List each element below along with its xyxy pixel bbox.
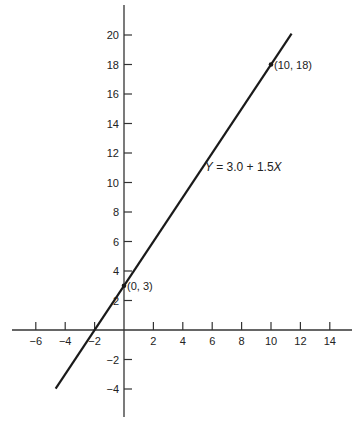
equation-label: Y = 3.0 + 1.5X <box>205 160 283 174</box>
y-ticks: −4−22468101214161820 <box>106 29 132 395</box>
x-tick-label: 10 <box>265 335 277 347</box>
line-chart: −6−4−22468101214 −4−22468101214161820 (0… <box>0 0 363 424</box>
y-tick-label: 10 <box>107 177 119 189</box>
series-line <box>56 34 292 389</box>
x-tick-label: −6 <box>30 335 43 347</box>
y-tick-label: 8 <box>113 206 119 218</box>
x-tick-label: 8 <box>239 335 245 347</box>
y-tick-label: 4 <box>113 265 119 277</box>
point-label: (10, 18) <box>274 59 312 71</box>
y-tick-label: 6 <box>113 236 119 248</box>
x-ticks: −6−4−22468101214 <box>30 322 336 347</box>
x-tick-label: 12 <box>294 335 306 347</box>
y-tick-label: 18 <box>107 59 119 71</box>
x-tick-label: 14 <box>324 335 336 347</box>
regression-line <box>56 34 292 389</box>
point-label: (0, 3) <box>127 280 153 292</box>
y-tick-label: 14 <box>107 118 119 130</box>
y-tick-label: 12 <box>107 147 119 159</box>
data-point <box>269 62 274 67</box>
x-tick-label: 6 <box>209 335 215 347</box>
y-tick-label: −4 <box>106 383 119 395</box>
x-tick-label: −4 <box>59 335 72 347</box>
x-tick-label: 2 <box>150 335 156 347</box>
y-tick-label: 16 <box>107 88 119 100</box>
y-tick-label: −2 <box>106 354 119 366</box>
data-points: (0, 3)(10, 18) <box>122 59 312 292</box>
y-tick-label: 20 <box>107 29 119 41</box>
data-point <box>122 283 127 288</box>
x-tick-label: 4 <box>180 335 186 347</box>
